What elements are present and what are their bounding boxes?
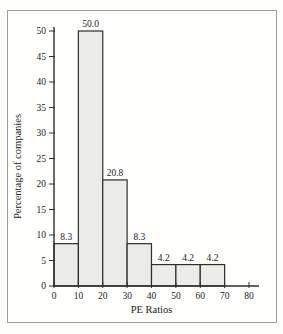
bar: [176, 265, 200, 286]
y-tick-label: 40: [37, 77, 47, 87]
y-tick-label: 0: [41, 281, 46, 291]
bar-value-label: 50.0: [82, 19, 99, 29]
pe-ratios-histogram: 8.350.020.88.34.24.24.205101520253035404…: [8, 11, 277, 323]
bar: [54, 244, 78, 286]
figure-frame: 8.350.020.88.34.24.24.205101520253035404…: [7, 10, 277, 323]
y-tick-label: 10: [37, 230, 47, 240]
bar: [103, 180, 127, 286]
y-tick-label: 30: [37, 128, 47, 138]
bar-value-label: 8.3: [60, 232, 72, 242]
x-tick-label: 20: [98, 291, 108, 301]
page: 8.350.020.88.34.24.24.205101520253035404…: [0, 0, 283, 334]
bar: [78, 31, 102, 286]
x-tick-label: 60: [196, 291, 206, 301]
x-tick-label: 50: [171, 291, 181, 301]
bar-value-label: 8.3: [133, 232, 145, 242]
bar-value-label: 4.2: [182, 253, 194, 263]
x-tick-label: 70: [220, 291, 230, 301]
bar: [152, 265, 176, 286]
x-tick-label: 30: [122, 291, 132, 301]
y-tick-label: 25: [37, 154, 47, 164]
bar: [200, 265, 224, 286]
bar-value-label: 4.2: [207, 253, 219, 263]
y-tick-label: 5: [41, 256, 46, 266]
x-axis-title: PE Ratios: [131, 304, 173, 315]
y-tick-label: 50: [37, 26, 47, 36]
x-tick-label: 40: [147, 291, 157, 301]
y-tick-label: 45: [37, 52, 47, 62]
bar-value-label: 20.8: [107, 168, 124, 178]
x-tick-label: 80: [244, 291, 254, 301]
bar: [127, 244, 151, 286]
bar-value-label: 4.2: [158, 253, 170, 263]
y-tick-label: 20: [37, 179, 47, 189]
y-tick-label: 15: [37, 205, 47, 215]
x-tick-label: 10: [74, 291, 84, 301]
y-axis-title: Percentage of companies: [12, 114, 23, 219]
x-tick-label: 0: [52, 291, 57, 301]
y-tick-label: 35: [37, 103, 47, 113]
